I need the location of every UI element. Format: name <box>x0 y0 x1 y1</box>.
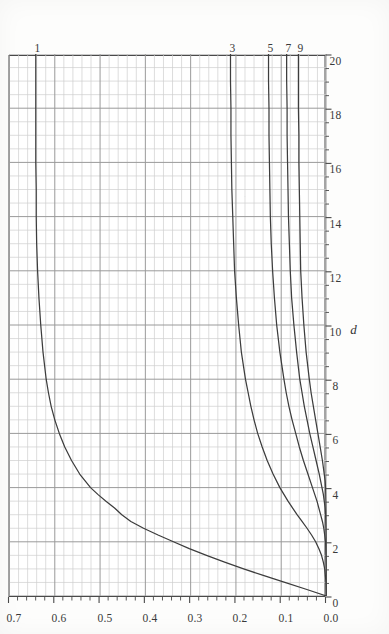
x-tick-label-4: 4 <box>332 489 338 501</box>
x-axis-title: d <box>350 322 357 338</box>
x-tick-label-10: 10 <box>329 326 341 338</box>
series-label-9: 9 <box>297 42 303 54</box>
y-tick-label-0.2: 0.2 <box>221 612 247 624</box>
scanned-page: 02468101214161820 0.00.10.20.30.40.50.60… <box>0 0 389 634</box>
y-tick-label-0.4: 0.4 <box>131 612 157 624</box>
y-tick-label-0.1: 0.1 <box>267 612 293 624</box>
y-tick-label-0.0: 0.0 <box>312 612 338 624</box>
x-tick-label-14: 14 <box>329 218 341 230</box>
x-tick-label-0: 0 <box>332 597 338 609</box>
x-tick-label-12: 12 <box>329 272 341 284</box>
y-tick-label-0.6: 0.6 <box>40 612 66 624</box>
x-tick-label-18: 18 <box>329 109 341 121</box>
x-tick-label-16: 16 <box>329 163 341 175</box>
x-tick-label-6: 6 <box>332 434 338 446</box>
y-tick-label-0.3: 0.3 <box>176 612 202 624</box>
series-label-5: 5 <box>267 42 273 54</box>
x-tick-label-2: 2 <box>332 543 338 555</box>
figure: 02468101214161820 0.00.10.20.30.40.50.60… <box>0 0 389 634</box>
y-tick-label-0.5: 0.5 <box>86 612 112 624</box>
axis-ticks <box>0 0 389 634</box>
x-tick-label-8: 8 <box>332 380 338 392</box>
x-tick-label-20: 20 <box>329 55 341 67</box>
figure-rotated-container: 02468101214161820 0.00.10.20.30.40.50.60… <box>0 0 389 634</box>
y-tick-label-0.7: 0.7 <box>0 612 21 624</box>
series-label-7: 7 <box>285 42 291 54</box>
series-label-3: 3 <box>229 42 235 54</box>
series-label-1: 1 <box>34 42 40 54</box>
